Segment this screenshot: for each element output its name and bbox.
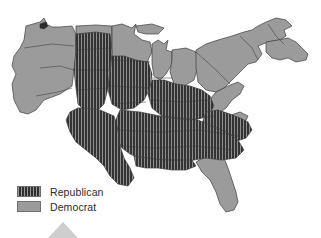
map-legend: Republican Democrat (17, 185, 127, 215)
legend-label-republican: Republican (50, 186, 104, 198)
bottom-triangle-marker (48, 222, 78, 238)
legend-item-democrat: Democrat (17, 200, 127, 213)
region-pacific-northwest (12, 18, 76, 114)
legend-label-democrat: Democrat (50, 201, 96, 213)
region-new-england (266, 38, 308, 62)
legend-swatch-republican (17, 186, 41, 197)
region-ohio-valley-north (170, 48, 198, 86)
legend-swatch-democrat (17, 201, 41, 212)
region-great-lakes (152, 40, 172, 80)
region-florida (196, 154, 238, 212)
triangle-icon (48, 222, 78, 238)
region-upper-peninsula (136, 24, 164, 34)
election-map-figure: Republican Democrat (0, 0, 321, 238)
legend-item-republican: Republican (17, 185, 127, 198)
democrat-states-group (12, 18, 308, 212)
region-plains-corridor (74, 32, 112, 112)
